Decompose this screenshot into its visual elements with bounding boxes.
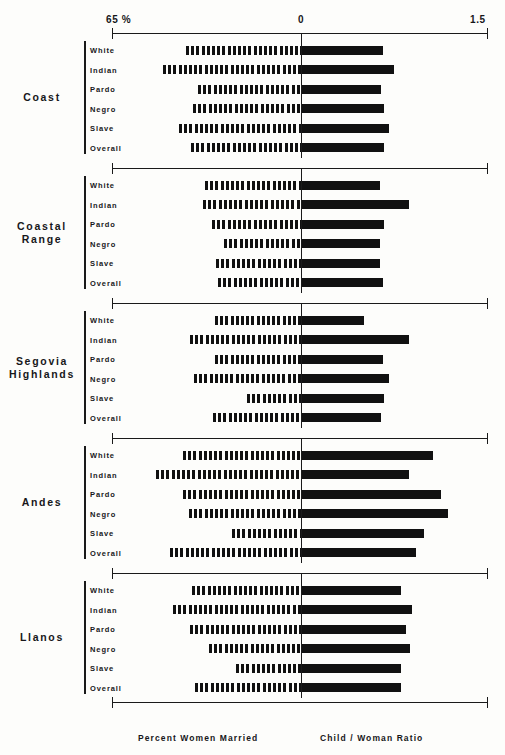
axis-tick-right-g3 bbox=[487, 433, 488, 444]
row-label-pardo-3: Pardo bbox=[90, 490, 116, 499]
bar-percent-women-married bbox=[215, 355, 301, 364]
axis-label-right: 1.5 bbox=[470, 14, 486, 25]
caption-percent-women-married: Percent Women Married bbox=[138, 733, 258, 743]
row-label-white-1: White bbox=[90, 181, 115, 190]
axis-rule-g3 bbox=[112, 438, 487, 439]
region-label-line: Llanos bbox=[0, 631, 84, 644]
row-label-overall-0: Overall bbox=[90, 144, 122, 153]
region-label-0: Coast bbox=[0, 91, 84, 104]
bar-percent-women-married bbox=[224, 239, 301, 248]
row-label-negro-0: Negro bbox=[90, 105, 116, 114]
axis-tick-right-g2 bbox=[487, 298, 488, 309]
axis-tick-left-g1 bbox=[112, 163, 113, 174]
row-label-slave-3: Slave bbox=[90, 529, 114, 538]
bar-child-woman-ratio bbox=[302, 548, 416, 557]
region-label-4: Llanos bbox=[0, 631, 84, 644]
bar-percent-women-married bbox=[194, 374, 301, 383]
bar-child-woman-ratio bbox=[302, 664, 401, 673]
row-label-slave-4: Slave bbox=[90, 664, 114, 673]
bar-percent-women-married bbox=[193, 104, 301, 113]
axis-label-left: 65 % bbox=[106, 14, 131, 25]
bar-child-woman-ratio bbox=[302, 625, 406, 634]
row-label-slave-0: Slave bbox=[90, 124, 114, 133]
bar-child-woman-ratio bbox=[302, 220, 384, 229]
bar-child-woman-ratio bbox=[302, 200, 409, 209]
bar-percent-women-married bbox=[191, 143, 301, 152]
bar-percent-women-married bbox=[216, 259, 301, 268]
region-label-line: Andes bbox=[0, 496, 84, 509]
bar-percent-women-married bbox=[213, 413, 301, 422]
bar-percent-women-married bbox=[189, 509, 301, 518]
axis-tick-right-g1 bbox=[487, 163, 488, 174]
bar-child-woman-ratio bbox=[302, 529, 424, 538]
bar-child-woman-ratio bbox=[302, 239, 380, 248]
bar-child-woman-ratio bbox=[302, 470, 409, 479]
bar-child-woman-ratio bbox=[302, 181, 380, 190]
bar-percent-women-married bbox=[163, 65, 301, 74]
row-label-negro-3: Negro bbox=[90, 510, 116, 519]
group-bracket-4 bbox=[84, 581, 86, 694]
row-label-white-2: White bbox=[90, 316, 115, 325]
axis-tick-left-bottom bbox=[112, 697, 113, 708]
row-label-negro-1: Negro bbox=[90, 240, 116, 249]
axis-tick-left-g0 bbox=[112, 28, 113, 39]
bar-child-woman-ratio bbox=[302, 644, 410, 653]
group-bracket-3 bbox=[84, 446, 86, 559]
bar-child-woman-ratio bbox=[302, 413, 381, 422]
chart-canvas: 65 %01.5CoastWhiteIndianPardoNegroSlaveO… bbox=[0, 0, 505, 755]
bar-child-woman-ratio bbox=[302, 259, 380, 268]
axis-tick-left-g2 bbox=[112, 298, 113, 309]
row-label-slave-2: Slave bbox=[90, 394, 114, 403]
bar-percent-women-married bbox=[212, 220, 301, 229]
region-label-2: SegoviaHighlands bbox=[0, 355, 84, 381]
axis-rule-g4 bbox=[112, 573, 487, 574]
bar-child-woman-ratio bbox=[302, 46, 383, 55]
axis-rule-bottom bbox=[112, 702, 487, 703]
region-label-line: Highlands bbox=[0, 368, 84, 381]
row-label-white-0: White bbox=[90, 46, 115, 55]
bar-percent-women-married bbox=[183, 490, 301, 499]
bar-child-woman-ratio bbox=[302, 605, 412, 614]
bar-child-woman-ratio bbox=[302, 143, 384, 152]
bar-percent-women-married bbox=[209, 644, 301, 653]
region-label-line: Range bbox=[0, 233, 84, 246]
group-bracket-2 bbox=[84, 311, 86, 424]
bar-percent-women-married bbox=[186, 46, 301, 55]
row-label-pardo-4: Pardo bbox=[90, 625, 116, 634]
row-label-white-3: White bbox=[90, 451, 115, 460]
region-label-3: Andes bbox=[0, 496, 84, 509]
region-label-line: Segovia bbox=[0, 355, 84, 368]
bar-percent-women-married bbox=[215, 316, 301, 325]
row-label-pardo-2: Pardo bbox=[90, 355, 116, 364]
bar-percent-women-married bbox=[205, 181, 301, 190]
bar-child-woman-ratio bbox=[302, 85, 381, 94]
row-label-pardo-1: Pardo bbox=[90, 220, 116, 229]
row-label-slave-1: Slave bbox=[90, 259, 114, 268]
bar-child-woman-ratio bbox=[302, 490, 441, 499]
bar-child-woman-ratio bbox=[302, 355, 383, 364]
axis-tick-right-bottom bbox=[487, 697, 488, 708]
row-label-indian-2: Indian bbox=[90, 336, 117, 345]
axis-tick-right-g4 bbox=[487, 568, 488, 579]
bar-percent-women-married bbox=[203, 200, 301, 209]
bar-percent-women-married bbox=[195, 683, 301, 692]
row-label-negro-4: Negro bbox=[90, 645, 116, 654]
bar-percent-women-married bbox=[190, 625, 301, 634]
row-label-overall-4: Overall bbox=[90, 684, 122, 693]
bar-percent-women-married bbox=[236, 664, 301, 673]
row-label-overall-2: Overall bbox=[90, 414, 122, 423]
row-label-indian-0: Indian bbox=[90, 66, 117, 75]
axis-rule-g1 bbox=[112, 168, 487, 169]
bar-percent-women-married bbox=[179, 124, 301, 133]
bar-percent-women-married bbox=[183, 451, 301, 460]
bar-percent-women-married bbox=[156, 470, 301, 479]
bar-child-woman-ratio bbox=[302, 124, 389, 133]
bar-percent-women-married bbox=[232, 529, 301, 538]
row-label-pardo-0: Pardo bbox=[90, 85, 116, 94]
bar-child-woman-ratio bbox=[302, 374, 389, 383]
axis-tick-left-g4 bbox=[112, 568, 113, 579]
group-bracket-1 bbox=[84, 176, 86, 289]
axis-rule-g0 bbox=[112, 33, 487, 34]
bar-percent-women-married bbox=[173, 605, 301, 614]
bar-child-woman-ratio bbox=[302, 65, 394, 74]
